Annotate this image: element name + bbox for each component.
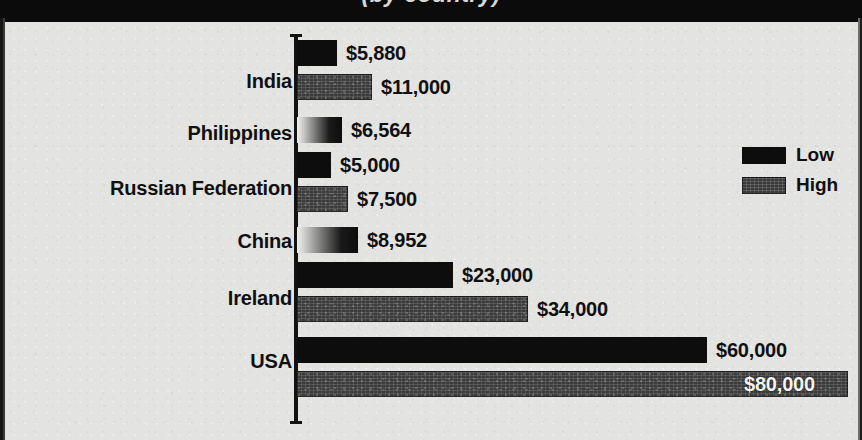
bar-value-label: $5,880: [346, 42, 406, 65]
chart-title-clipped: (by country): [0, 0, 862, 8]
bar-high[interactable]: [297, 74, 372, 100]
legend-swatch-high-icon: [742, 177, 786, 194]
category-label: China: [12, 230, 292, 253]
category-label: Russian Federation: [12, 177, 292, 200]
bar-value-label: $5,000: [340, 154, 400, 177]
axis-tick-bottom: [290, 421, 302, 424]
bar-high[interactable]: [297, 186, 348, 212]
legend-item-low: Low: [742, 144, 857, 174]
category-label: USA: [12, 350, 292, 373]
chart-legend: Low High: [742, 144, 857, 204]
plot-area: India$5,880$11,000Philippines$6,564Russi…: [0, 22, 862, 440]
category-label: Ireland: [12, 287, 292, 310]
bar-low[interactable]: [297, 152, 331, 178]
bar-value-label: $60,000: [716, 339, 787, 362]
bar-value-label: $34,000: [537, 298, 608, 321]
bar-value-label: $80,000: [744, 373, 815, 396]
chart-title-band: (by country): [0, 0, 862, 22]
bar-value-label: $7,500: [357, 188, 417, 211]
bar-low[interactable]: [297, 227, 358, 253]
bar-value-label: $8,952: [367, 229, 427, 252]
axis-tick-top: [290, 34, 302, 37]
legend-item-high: High: [742, 174, 857, 204]
bar-low[interactable]: [297, 337, 707, 363]
category-label: Philippines: [12, 122, 292, 145]
chart-screenshot: (by country) India$5,880$11,000Philippin…: [0, 0, 862, 440]
bar-value-label: $6,564: [351, 119, 411, 142]
legend-label-low: Low: [796, 144, 834, 166]
category-label: India: [12, 70, 292, 93]
bar-low[interactable]: [297, 117, 342, 143]
bar-value-label: $11,000: [381, 76, 451, 99]
legend-label-high: High: [796, 174, 838, 196]
bar-high[interactable]: [297, 296, 528, 322]
bar-low[interactable]: [297, 40, 337, 66]
bar-low[interactable]: [297, 262, 453, 288]
bar-value-label: $23,000: [462, 264, 533, 287]
legend-swatch-low-icon: [742, 147, 786, 164]
